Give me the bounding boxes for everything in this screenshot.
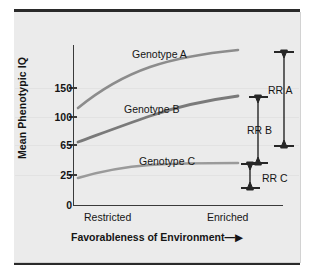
y-tick-100: 100 <box>42 111 72 123</box>
curve-label-genotype-a: Genotype A <box>132 48 187 60</box>
y-tick-0: 0 <box>42 199 72 211</box>
figure-container: Mean Phenotypic IQ 150 100 65 25 0 Restr… <box>0 0 320 276</box>
y-tick-65: 65 <box>42 139 72 151</box>
range-label-rr-a: RR A <box>268 84 293 96</box>
range-bracket-a <box>274 50 294 148</box>
y-axis-title: Mean Phenotypic IQ <box>16 48 28 168</box>
y-tick-25: 25 <box>42 169 72 181</box>
range-bracket-c <box>241 162 260 190</box>
range-label-rr-b: RR B <box>247 124 272 136</box>
x-category-restricted: Restricted <box>84 211 131 223</box>
x-axis-title: Favorableness of Environment—▶ <box>14 231 300 243</box>
range-label-rr-c: RR C <box>262 172 288 184</box>
curve-label-genotype-b: Genotype B <box>124 103 179 115</box>
curve-label-genotype-c: Genotype C <box>139 155 195 167</box>
y-tick-150: 150 <box>42 82 72 94</box>
x-category-enriched: Enriched <box>207 211 248 223</box>
